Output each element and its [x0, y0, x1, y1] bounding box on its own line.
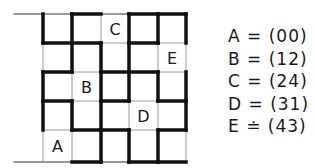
- legend-entry-b: B = (12): [228, 48, 309, 71]
- cell-label-b: B: [81, 78, 92, 97]
- cell-label-e: E: [167, 49, 177, 68]
- cell-label-d: D: [137, 107, 149, 126]
- legend-entry-c: C = (24): [228, 70, 309, 93]
- coordinate-legend: A = (00) B = (12) C = (24) D = (31) E ≐ …: [228, 25, 309, 138]
- legend-entry-e: E ≐ (43): [228, 115, 309, 138]
- cell-label-c: C: [109, 20, 120, 39]
- legend-entry-a: A = (00): [228, 25, 309, 48]
- cell-label-a: A: [52, 137, 63, 156]
- legend-entry-d: D = (31): [228, 93, 309, 116]
